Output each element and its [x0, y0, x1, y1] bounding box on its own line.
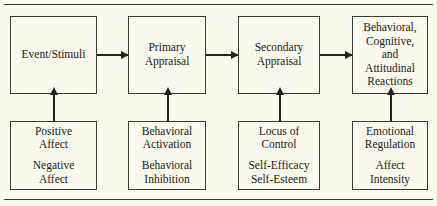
node-label-line: Behavioral, — [363, 21, 416, 35]
arrow-emotion-to-reactions-icon — [390, 94, 392, 121]
node-label-line: Self-Esteem — [251, 173, 307, 187]
node-event-stimuli: Event/Stimuli — [10, 16, 97, 94]
node-label-line: Negative — [33, 159, 75, 173]
bottom-divider-rule — [4, 199, 433, 200]
node-label-line: Regulation — [365, 138, 415, 152]
node-label-line: Secondary — [255, 41, 304, 55]
node-reactions: Behavioral, Cognitive, and Attitudinal R… — [352, 16, 428, 94]
node-label-line: Cognitive, — [366, 35, 414, 49]
arrow-secondary-to-reactions-icon — [320, 54, 352, 56]
node-label-line: Self-Efficacy — [248, 159, 309, 173]
node-label-line: Positive — [35, 125, 72, 139]
node-label-line: Activation — [143, 138, 192, 152]
node-label-line: Appraisal — [257, 55, 302, 69]
node-emotion-traits: Emotional Regulation Affect Intensity — [352, 121, 428, 190]
node-label-line: Behavioral — [142, 159, 192, 173]
node-label-line: Locus of — [259, 125, 300, 139]
node-label-line: Primary — [148, 41, 185, 55]
top-divider-rule — [4, 4, 433, 5]
arrow-affect-to-event-icon — [53, 94, 55, 121]
node-label-line: and — [382, 48, 399, 62]
node-label-line: Affect — [39, 173, 68, 187]
node-label-line: Appraisal — [145, 55, 190, 69]
arrow-primary-to-secondary-icon — [206, 54, 238, 56]
node-label-line: Affect — [375, 159, 404, 173]
node-label-line: Emotional — [366, 125, 414, 139]
node-label-line: Control — [261, 138, 296, 152]
node-label-line: Behavioral — [142, 125, 192, 139]
node-label-line: Intensity — [370, 173, 410, 187]
node-control-beliefs: Locus of Control Self-Efficacy Self-Este… — [238, 121, 320, 190]
node-label-line: Event/Stimuli — [22, 48, 86, 62]
arrow-control-to-secondary-icon — [279, 94, 281, 121]
node-primary-appraisal: Primary Appraisal — [128, 16, 206, 94]
arrow-event-to-primary-icon — [97, 54, 128, 56]
node-label-line: Affect — [39, 138, 68, 152]
flowchart-diagram: Event/Stimuli Primary Appraisal Secondar… — [0, 0, 437, 206]
node-behavioral-system: Behavioral Activation Behavioral Inhibit… — [128, 121, 206, 190]
node-affect: Positive Affect Negative Affect — [10, 121, 97, 190]
arrow-behavioral-to-primary-icon — [167, 94, 169, 121]
node-label-line: Inhibition — [144, 173, 189, 187]
node-label-line: Attitudinal — [365, 62, 415, 76]
node-secondary-appraisal: Secondary Appraisal — [238, 16, 320, 94]
